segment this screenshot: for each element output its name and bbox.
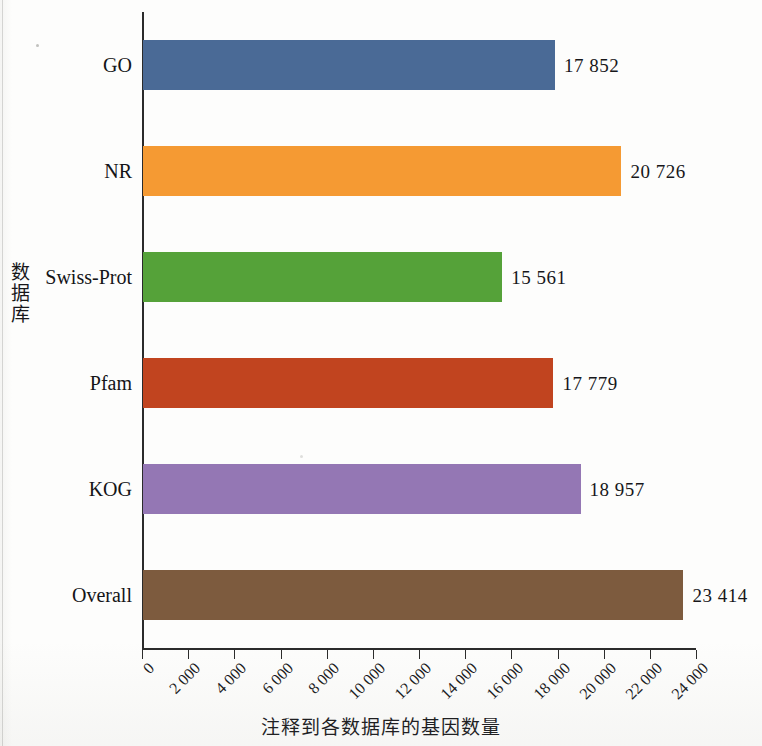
bar — [143, 252, 502, 302]
y-axis-category-label: Swiss-Prot — [45, 267, 132, 287]
chart-page: 17 85220 72615 56117 77918 95723 414 GON… — [0, 0, 762, 746]
x-axis-tick — [327, 650, 328, 659]
y-axis-category-label: GO — [103, 55, 132, 75]
bar-value-label: 17 852 — [564, 56, 619, 75]
bar-value-label: 18 957 — [590, 480, 645, 499]
y-axis-category-label: Pfam — [90, 373, 132, 393]
bar — [143, 146, 621, 196]
x-axis-tick — [234, 650, 235, 659]
bar-value-label: 17 779 — [562, 374, 617, 393]
x-axis-tick — [188, 650, 189, 659]
x-axis-title: 注释到各数据库的基因数量 — [0, 712, 762, 739]
bar-value-label: 23 414 — [692, 586, 747, 605]
scan-speck — [300, 455, 303, 458]
x-axis-tick — [142, 650, 143, 659]
x-axis-tick — [511, 650, 512, 659]
scan-speck — [36, 44, 39, 47]
x-axis-tick — [604, 650, 605, 659]
x-axis-tick — [696, 650, 697, 659]
y-axis-line — [142, 12, 144, 648]
bar-value-label: 15 561 — [511, 268, 566, 287]
plot-area: 17 85220 72615 56117 77918 95723 414 — [142, 12, 696, 648]
y-axis-category-label: NR — [104, 161, 132, 181]
x-axis-tick — [281, 650, 282, 659]
y-axis-category-label: Overall — [72, 585, 132, 605]
bar — [143, 464, 581, 514]
scan-edge-line — [2, 0, 3, 746]
bar — [143, 358, 553, 408]
x-axis-tick — [650, 650, 651, 659]
y-axis-category-label: KOG — [89, 479, 132, 499]
bar-value-label: 20 726 — [630, 162, 685, 181]
x-axis-tick — [419, 650, 420, 659]
bar — [143, 40, 555, 90]
y-axis-title: 数据库 — [6, 262, 33, 325]
x-axis-tick — [465, 650, 466, 659]
x-axis-tick — [558, 650, 559, 659]
x-axis-tick — [373, 650, 374, 659]
bar — [143, 570, 683, 620]
